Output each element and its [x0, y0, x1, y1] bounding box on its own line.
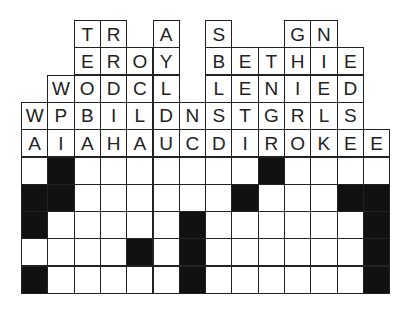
answer-cell[interactable] [47, 238, 74, 266]
letter-tile[interactable]: A [74, 129, 101, 157]
answer-cell[interactable] [363, 157, 390, 185]
letter-tile[interactable]: R [284, 102, 311, 130]
answer-cell[interactable] [153, 211, 180, 239]
answer-cell[interactable] [153, 266, 180, 294]
answer-cell[interactable] [284, 157, 311, 185]
letter-tile[interactable]: H [100, 129, 127, 157]
letter-tile[interactable]: L [310, 102, 337, 130]
letter-tile[interactable]: S [337, 102, 364, 130]
letter-tile[interactable]: E [74, 47, 101, 75]
answer-cell[interactable] [205, 184, 232, 212]
letter-tile[interactable]: G [258, 102, 285, 130]
letter-tile[interactable]: R [100, 20, 127, 48]
answer-cell[interactable] [205, 211, 232, 239]
letter-tile[interactable]: C [126, 75, 153, 103]
letter-tile[interactable]: N [179, 102, 206, 130]
answer-cell[interactable] [47, 266, 74, 294]
answer-cell[interactable] [205, 266, 232, 294]
letter-tile[interactable]: C [179, 129, 206, 157]
answer-cell[interactable] [231, 238, 258, 266]
answer-cell[interactable] [100, 238, 127, 266]
letter-tile[interactable]: L [205, 75, 232, 103]
letter-tile[interactable]: K [310, 129, 337, 157]
answer-cell[interactable] [310, 266, 337, 294]
answer-cell[interactable] [153, 184, 180, 212]
answer-cell[interactable] [21, 238, 48, 266]
answer-cell[interactable] [205, 238, 232, 266]
answer-cell[interactable] [231, 211, 258, 239]
letter-tile[interactable]: D [205, 129, 232, 157]
answer-cell[interactable] [258, 211, 285, 239]
letter-tile[interactable]: D [153, 102, 180, 130]
letter-tile[interactable]: O [126, 47, 153, 75]
letter-tile[interactable]: I [284, 75, 311, 103]
answer-cell[interactable] [126, 211, 153, 239]
letter-tile[interactable]: B [205, 47, 232, 75]
answer-cell[interactable] [47, 211, 74, 239]
answer-cell[interactable] [258, 184, 285, 212]
letter-tile[interactable]: T [74, 20, 101, 48]
letter-tile[interactable]: N [258, 75, 285, 103]
answer-cell[interactable] [100, 157, 127, 185]
letter-tile[interactable]: L [153, 75, 180, 103]
answer-cell[interactable] [100, 184, 127, 212]
letter-tile[interactable]: R [100, 47, 127, 75]
answer-cell[interactable] [231, 157, 258, 185]
letter-tile[interactable]: A [21, 129, 48, 157]
answer-cell[interactable] [126, 157, 153, 185]
answer-cell[interactable] [126, 184, 153, 212]
letter-tile[interactable]: I [310, 47, 337, 75]
answer-cell[interactable] [310, 157, 337, 185]
answer-cell[interactable] [284, 238, 311, 266]
answer-cell[interactable] [179, 157, 206, 185]
letter-tile[interactable]: O [284, 129, 311, 157]
letter-tile[interactable]: A [126, 129, 153, 157]
letter-tile[interactable]: S [205, 102, 232, 130]
letter-tile[interactable]: O [74, 75, 101, 103]
answer-cell[interactable] [153, 238, 180, 266]
letter-tile[interactable]: H [284, 47, 311, 75]
letter-tile[interactable]: E [231, 47, 258, 75]
answer-cell[interactable] [179, 184, 206, 212]
letter-tile[interactable]: G [284, 20, 311, 48]
letter-tile[interactable]: U [153, 129, 180, 157]
answer-cell[interactable] [74, 238, 101, 266]
answer-cell[interactable] [310, 184, 337, 212]
letter-tile[interactable]: I [231, 129, 258, 157]
letter-tile[interactable]: W [47, 75, 74, 103]
letter-tile[interactable]: Y [153, 47, 180, 75]
letter-tile[interactable]: E [337, 129, 364, 157]
answer-cell[interactable] [337, 157, 364, 185]
answer-cell[interactable] [100, 211, 127, 239]
letter-tile[interactable]: P [47, 102, 74, 130]
letter-tile[interactable]: E [363, 129, 390, 157]
answer-cell[interactable] [258, 238, 285, 266]
answer-cell[interactable] [74, 157, 101, 185]
answer-cell[interactable] [337, 211, 364, 239]
letter-tile[interactable]: E [231, 75, 258, 103]
letter-tile[interactable]: A [153, 20, 180, 48]
answer-cell[interactable] [153, 157, 180, 185]
answer-cell[interactable] [126, 266, 153, 294]
answer-cell[interactable] [100, 266, 127, 294]
answer-cell[interactable] [21, 157, 48, 185]
answer-cell[interactable] [74, 266, 101, 294]
answer-cell[interactable] [284, 266, 311, 294]
letter-tile[interactable]: E [337, 47, 364, 75]
letter-tile[interactable]: S [205, 20, 232, 48]
answer-cell[interactable] [337, 266, 364, 294]
answer-cell[interactable] [231, 266, 258, 294]
letter-tile[interactable]: T [258, 47, 285, 75]
answer-cell[interactable] [258, 266, 285, 294]
letter-tile[interactable]: D [337, 75, 364, 103]
letter-tile[interactable]: W [21, 102, 48, 130]
answer-cell[interactable] [310, 238, 337, 266]
answer-cell[interactable] [74, 211, 101, 239]
answer-cell[interactable] [284, 184, 311, 212]
answer-cell[interactable] [310, 211, 337, 239]
letter-tile[interactable]: I [100, 102, 127, 130]
letter-tile[interactable]: L [126, 102, 153, 130]
letter-tile[interactable]: B [74, 102, 101, 130]
letter-tile[interactable]: N [310, 20, 337, 48]
letter-tile[interactable]: D [100, 75, 127, 103]
